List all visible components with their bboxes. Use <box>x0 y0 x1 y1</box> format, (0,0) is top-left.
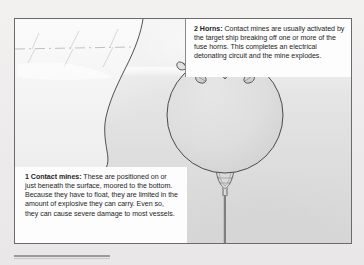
page-rule-shadow <box>14 258 110 259</box>
caption-contact-heading: Contact mines: <box>31 173 82 181</box>
page-rule <box>14 255 110 257</box>
caption-horns-text: 2 Horns: Contact mines are usually activ… <box>194 25 344 60</box>
caption-horns: 2 Horns: Contact mines are usually activ… <box>185 19 352 77</box>
scanned-page: 2 Horns: Contact mines are usually activ… <box>0 0 364 265</box>
caption-horns-heading: Horns: <box>200 25 223 33</box>
caption-contact-mines: 1 Contact mines: These are positioned on… <box>15 167 187 244</box>
caption-contact-number: 1 <box>25 173 29 181</box>
figure-panel: 2 Horns: Contact mines are usually activ… <box>14 18 352 244</box>
caption-contact-text: 1 Contact mines: These are positioned on… <box>25 173 178 218</box>
caption-horns-number: 2 <box>194 25 198 33</box>
